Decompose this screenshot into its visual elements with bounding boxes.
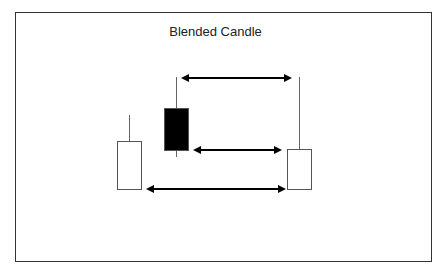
candle-body xyxy=(165,109,189,151)
candle-body xyxy=(118,142,142,190)
candlestick-diagram xyxy=(0,0,447,275)
candle-body xyxy=(288,150,312,190)
blended-candle xyxy=(288,77,312,190)
second-candle xyxy=(165,77,189,157)
first-candle xyxy=(118,115,142,190)
